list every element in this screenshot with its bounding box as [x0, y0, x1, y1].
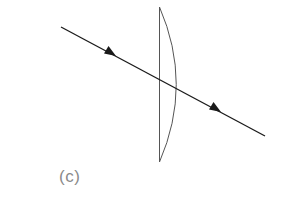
arrowhead-icon [104, 46, 116, 56]
light-ray [61, 27, 265, 136]
lens-ray-diagram [0, 0, 282, 197]
arrowhead-icon [209, 102, 221, 112]
figure-label: (c) [59, 167, 80, 187]
